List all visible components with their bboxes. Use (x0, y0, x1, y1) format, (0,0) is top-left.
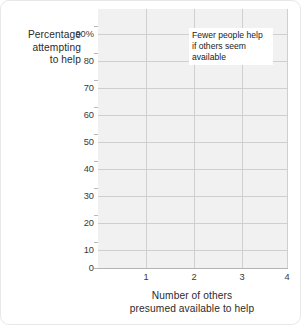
y-tick-label: 0 (60, 263, 94, 273)
x-tick-label: 2 (182, 272, 206, 282)
x-tick-label: 3 (230, 272, 254, 282)
gridline-horizontal (98, 142, 288, 143)
y-tick-mark (94, 268, 98, 269)
y-tick-label: 10 (60, 245, 94, 255)
y-tick-label: 80 (60, 56, 94, 66)
gridline-horizontal (98, 196, 288, 197)
chart-annotation: Fewer people help if others seem availab… (189, 28, 273, 65)
y-tick-mark (94, 242, 98, 243)
y-tick-mark (94, 53, 98, 54)
y-tick-label: 20 (60, 218, 94, 228)
gridline-horizontal (98, 115, 288, 116)
chart-annotation-line-1: Fewer people help (192, 30, 270, 41)
y-tick-label: 30 (60, 191, 94, 201)
gridline-horizontal (98, 250, 288, 251)
x-axis-title-line-1: Number of others (96, 290, 288, 303)
gridline-horizontal (98, 223, 288, 224)
y-tick-mark (94, 26, 98, 27)
y-tick-mark (94, 80, 98, 81)
y-tick-mark (94, 188, 98, 189)
chart-figure-card: Percentage attempting to help 90% 80 70 … (0, 0, 301, 325)
x-axis-line (96, 268, 288, 269)
y-tick-label: 60 (60, 110, 94, 120)
y-tick-label: 90% (60, 29, 94, 39)
y-tick-mark (94, 134, 98, 135)
x-tick-label: 1 (134, 272, 158, 282)
y-tick-label: 50 (60, 137, 94, 147)
gridline-vertical (146, 9, 147, 268)
chart-annotation-line-2: if others seem (192, 41, 270, 52)
y-tick-mark (94, 107, 98, 108)
y-tick-label: 70 (60, 83, 94, 93)
x-axis-title-line-2: presumed available to help (96, 303, 288, 316)
x-tick-label: 4 (275, 272, 299, 282)
gridline-horizontal (98, 88, 288, 89)
y-tick-mark (94, 161, 98, 162)
x-axis-title: Number of others presumed available to h… (96, 290, 288, 315)
gridline-horizontal (98, 169, 288, 170)
chart-annotation-line-3: available (192, 52, 270, 63)
y-tick-label: 40 (60, 164, 94, 174)
gridline-vertical (287, 9, 288, 268)
y-axis-tick-labels: 90% 80 70 60 50 40 30 20 10 0 (58, 9, 94, 268)
y-tick-mark (94, 215, 98, 216)
